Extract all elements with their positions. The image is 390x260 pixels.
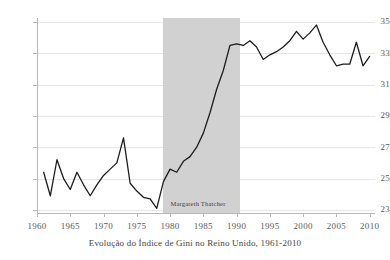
gini-line-path — [44, 25, 370, 208]
figure-container: Margareth Thatcher 23252729313335 196019… — [0, 0, 390, 260]
x-tick-mark — [203, 213, 204, 217]
y-tick-label: 29 — [361, 111, 390, 120]
y-tick-label: 31 — [361, 80, 390, 89]
y-tick-label: 23 — [361, 205, 390, 214]
figure-caption: Evolução do Índice de Gini no Reino Unid… — [0, 238, 390, 249]
x-tick-mark — [303, 213, 304, 217]
x-tick-mark — [137, 213, 138, 217]
gini-line-series — [37, 18, 375, 213]
y-tick-mark — [33, 116, 37, 117]
x-tick-mark — [104, 213, 105, 217]
x-tick-mark — [270, 213, 271, 217]
x-tick-mark — [336, 213, 337, 217]
y-tick-mark — [33, 179, 37, 180]
x-axis-line — [37, 213, 375, 214]
y-tick-mark — [33, 210, 37, 211]
y-tick-mark — [33, 53, 37, 54]
y-tick-label: 25 — [361, 174, 390, 183]
plot-area: Margareth Thatcher — [37, 18, 375, 213]
y-tick-mark — [33, 85, 37, 86]
x-tick-mark — [37, 213, 38, 217]
y-tick-label: 33 — [361, 49, 390, 58]
y-tick-mark — [33, 22, 37, 23]
x-tick-label: 2010 — [350, 222, 390, 231]
y-tick-label: 35 — [361, 17, 390, 26]
x-tick-mark — [237, 213, 238, 217]
x-tick-mark — [170, 213, 171, 217]
y-tick-label: 27 — [361, 143, 390, 152]
y-tick-mark — [33, 147, 37, 148]
x-tick-mark — [70, 213, 71, 217]
